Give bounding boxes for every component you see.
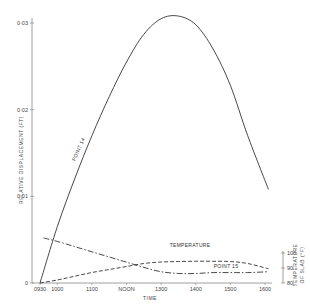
x-axis-title: TIME — [143, 295, 157, 301]
y2-axis-title-line1: TEMPERATURE — [292, 243, 298, 286]
y-tick-label: 0·03 — [17, 20, 28, 26]
temperature-label: TEMPERATURE — [170, 242, 211, 248]
x-tick-label: NOON — [118, 286, 135, 292]
y-axis-title: RELATIVE DISPLACEMENT (FT) — [18, 116, 24, 204]
point-15-label: POINT 15 — [214, 263, 239, 269]
axes: 00·010·020·03093010001100NOON13001400150… — [17, 18, 296, 292]
x-tick-label: 1400 — [190, 286, 202, 292]
x-tick-label: 1600 — [259, 286, 271, 292]
y-tick-label: 0·02 — [17, 107, 28, 113]
x-tick-label: 1000 — [51, 286, 63, 292]
y-tick-label: 0 — [25, 280, 28, 286]
x-tick-label: 1500 — [224, 286, 236, 292]
y2-axis-title-line2: OF SLAB (°F) — [299, 247, 305, 284]
x-tick-label: 0930 — [34, 286, 46, 292]
x-tick-label: 1100 — [86, 286, 98, 292]
x-tick-label: 1300 — [155, 286, 167, 292]
point-14-label: POINT 14 — [70, 137, 85, 162]
labels-group: RELATIVE DISPLACEMENT (FT) TIME TEMPERAT… — [18, 116, 305, 301]
line-chart: 00·010·020·03093010001100NOON13001400150… — [0, 0, 310, 305]
